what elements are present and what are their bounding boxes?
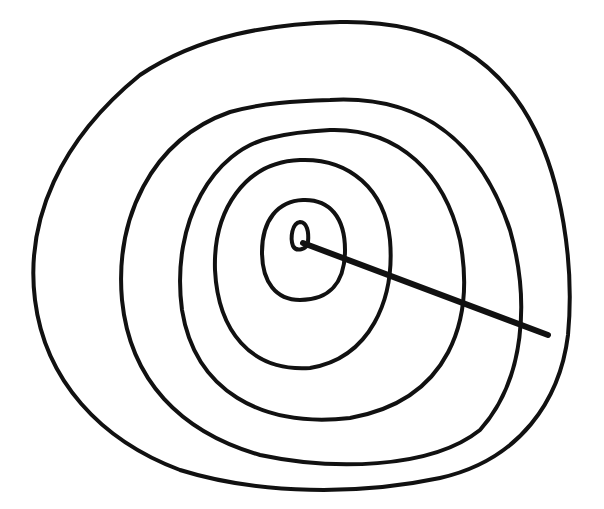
rings-group — [33, 22, 569, 490]
sketch-canvas: Hand-drawn concentric rings with a radia… — [0, 0, 604, 509]
ring-4 — [180, 130, 464, 420]
concentric-rings-drawing — [0, 0, 604, 509]
radial-line — [303, 243, 548, 335]
